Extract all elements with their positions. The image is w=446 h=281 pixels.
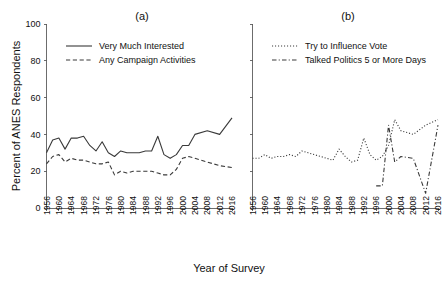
panel-b-title: (b) bbox=[341, 10, 354, 22]
x-tick-label: 2008 bbox=[202, 196, 212, 215]
two-panel-line-chart: (a) 020406080100 19561960196419681972197… bbox=[0, 0, 446, 281]
x-tick-label: 2000 bbox=[384, 196, 394, 215]
x-tick-label: 1988 bbox=[347, 196, 357, 215]
x-tick-label: 1992 bbox=[359, 196, 369, 215]
panel-b-x-axis: 1956196019641968197219761980198419881992… bbox=[248, 196, 444, 215]
panel-a-y-ticks: 020406080100 bbox=[25, 19, 46, 213]
panel-b: (b) 195619601964196819721976198019841988… bbox=[248, 10, 444, 215]
x-tick-label: 1960 bbox=[260, 196, 270, 215]
panel-a-x-ticks: 1956196019641968197219761980198419881992… bbox=[42, 196, 238, 215]
series-line-1 bbox=[47, 118, 233, 158]
x-axis-title: Year of Survey bbox=[193, 262, 265, 274]
x-tick-label: 1996 bbox=[371, 196, 381, 215]
figure-root: (a) 020406080100 19561960196419681972197… bbox=[0, 0, 446, 281]
y-tick-label: 20 bbox=[30, 166, 40, 176]
x-tick-label: 1980 bbox=[322, 196, 332, 215]
x-tick-label: 1992 bbox=[153, 196, 163, 215]
x-tick-label: 1968 bbox=[285, 196, 295, 215]
y-tick-label: 0 bbox=[35, 203, 40, 213]
series-line-1 bbox=[253, 120, 439, 162]
panel-b-y-axis bbox=[250, 24, 253, 208]
y-tick-label: 40 bbox=[30, 130, 40, 140]
panel-b-x-ticks: 1956196019641968197219761980198419881992… bbox=[248, 196, 444, 215]
x-tick-label: 1976 bbox=[104, 196, 114, 215]
x-tick-label: 2008 bbox=[408, 196, 418, 215]
x-tick-label: 1964 bbox=[272, 196, 282, 215]
x-tick-label: 2012 bbox=[215, 196, 225, 215]
panel-a-y-axis: 020406080100 bbox=[25, 19, 46, 213]
legend-label: Any Campaign Activities bbox=[99, 55, 196, 65]
panel-a-legend: Very Much InterestedAny Campaign Activit… bbox=[66, 41, 196, 65]
x-tick-label: 1984 bbox=[128, 196, 138, 215]
x-tick-label: 1968 bbox=[79, 196, 89, 215]
x-tick-label: 2000 bbox=[178, 196, 188, 215]
panel-a-x-axis: 1956196019641968197219761980198419881992… bbox=[42, 196, 238, 215]
x-tick-label: 1980 bbox=[116, 196, 126, 215]
y-tick-label: 60 bbox=[30, 93, 40, 103]
panel-a-title: (a) bbox=[135, 10, 148, 22]
x-tick-label: 2016 bbox=[433, 196, 443, 215]
panel-b-series-group bbox=[253, 120, 439, 194]
panel-b-legend: Try to Influence VoteTalked Politics 5 o… bbox=[272, 41, 427, 65]
x-tick-label: 2012 bbox=[421, 196, 431, 215]
x-tick-label: 1972 bbox=[91, 196, 101, 215]
y-tick-label: 80 bbox=[30, 56, 40, 66]
x-tick-label: 2016 bbox=[227, 196, 237, 215]
x-tick-label: 2004 bbox=[396, 196, 406, 215]
x-tick-label: 1964 bbox=[66, 196, 76, 215]
series-line-2 bbox=[47, 155, 233, 175]
x-tick-label: 1976 bbox=[310, 196, 320, 215]
legend-label: Talked Politics 5 or More Days bbox=[305, 55, 427, 65]
y-tick-label: 100 bbox=[25, 19, 40, 29]
legend-label: Try to Influence Vote bbox=[305, 41, 387, 51]
x-tick-label: 1984 bbox=[334, 196, 344, 215]
panel-a: (a) 020406080100 19561960196419681972197… bbox=[25, 10, 237, 215]
x-tick-label: 1972 bbox=[297, 196, 307, 215]
x-tick-label: 1996 bbox=[165, 196, 175, 215]
x-tick-label: 1956 bbox=[248, 196, 258, 215]
x-tick-label: 1960 bbox=[54, 196, 64, 215]
x-tick-label: 1988 bbox=[141, 196, 151, 215]
series-line-2 bbox=[376, 125, 438, 193]
x-tick-label: 2004 bbox=[190, 196, 200, 215]
y-axis-title: Percent of ANES Respondents bbox=[10, 40, 22, 191]
x-tick-label: 1956 bbox=[42, 196, 52, 215]
panel-a-series-group bbox=[47, 118, 233, 175]
legend-label: Very Much Interested bbox=[99, 41, 184, 51]
